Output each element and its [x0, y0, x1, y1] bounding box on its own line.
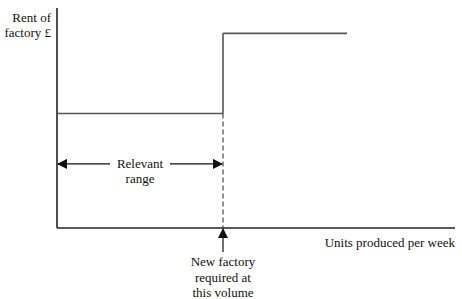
relevant-range-label-line-2: range	[126, 171, 155, 186]
y-axis-label-line-2: factory £	[4, 25, 51, 40]
new-factory-label-line-3: this volume	[192, 285, 253, 299]
stepped-cost-chart: Rent of factory £ Units produced per wee…	[0, 0, 462, 299]
new-factory-label-line-2: required at	[195, 270, 251, 285]
x-axis-label: Units produced per week	[325, 235, 456, 250]
relevant-range-label-line-1: Relevant	[117, 156, 164, 171]
new-factory-label-line-1: New factory	[191, 254, 256, 269]
y-axis-label-line-1: Rent of	[12, 10, 51, 25]
